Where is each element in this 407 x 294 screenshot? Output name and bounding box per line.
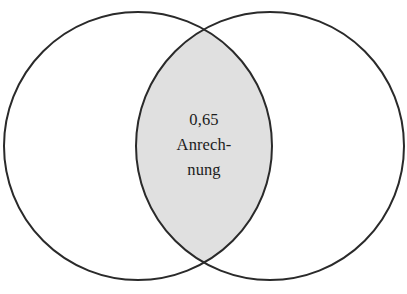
intersection-label: 0,65 Anrech- nung — [149, 107, 259, 182]
intersection-value: 0,65 — [149, 107, 259, 132]
intersection-caption-line-2: nung — [149, 157, 259, 182]
venn-diagram: 0,65 Anrech- nung — [0, 0, 407, 294]
intersection-caption-line-1: Anrech- — [149, 132, 259, 157]
